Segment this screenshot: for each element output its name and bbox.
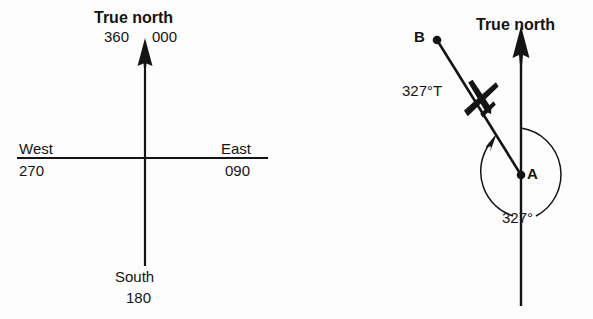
point-b-label: B [414, 29, 425, 44]
compass-south-label: South [115, 269, 154, 284]
track-bearing-label: 327°T [402, 83, 442, 98]
true-north-arrowhead-icon [513, 26, 530, 76]
compass-west-label: West [19, 141, 53, 156]
point-a-dot [517, 171, 526, 180]
bearing-diagram-group [433, 26, 561, 306]
compass-east-090-label: 090 [225, 163, 250, 178]
point-a-label: A [527, 166, 538, 181]
compass-true-north-label: True north [94, 10, 173, 26]
compass-west-270-label: 270 [19, 163, 44, 178]
north-arrowhead-icon [138, 38, 153, 80]
compass-south-180-label: 180 [126, 290, 151, 305]
point-b-dot [433, 36, 442, 45]
diagram-artwork [0, 0, 593, 319]
track-line-a-to-b [437, 40, 521, 175]
diagram-page: True north 360 000 West 270 East 090 Sou… [0, 0, 593, 319]
bearing-true-north-label: True north [476, 17, 555, 33]
compass-north-360-label: 360 [104, 29, 129, 44]
arc-bearing-label: 327° [502, 210, 533, 225]
compass-north-000-label: 000 [152, 29, 177, 44]
compass-east-label: East [221, 141, 251, 156]
